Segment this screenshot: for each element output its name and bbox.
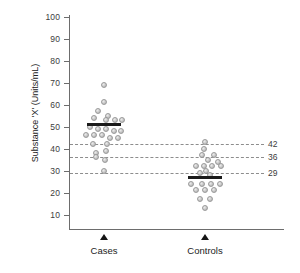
median-bar-cases xyxy=(87,123,121,126)
reference-line-29 xyxy=(70,173,264,174)
data-point xyxy=(102,157,108,163)
y-tick-label-10: 10 xyxy=(20,210,60,220)
data-point xyxy=(103,126,109,132)
data-point xyxy=(95,126,101,132)
group-label-cases: Cases xyxy=(59,245,149,256)
reference-line-42 xyxy=(70,144,264,145)
reference-label-29: 29 xyxy=(268,168,277,178)
data-point xyxy=(111,128,117,134)
y-tick-70 xyxy=(64,83,69,84)
data-point xyxy=(202,205,208,211)
data-point xyxy=(207,196,213,202)
y-tick-label-70: 70 xyxy=(20,78,60,88)
reference-label-36: 36 xyxy=(268,152,277,162)
data-point xyxy=(188,181,194,187)
y-tick-100 xyxy=(64,17,69,18)
data-point xyxy=(103,148,109,154)
reference-label-42: 42 xyxy=(268,139,277,149)
data-point xyxy=(101,168,107,174)
data-point xyxy=(101,82,107,88)
data-point xyxy=(104,141,110,147)
y-tick-label-60: 60 xyxy=(20,100,60,110)
median-bar-controls xyxy=(188,176,222,179)
y-tick-10 xyxy=(64,215,69,216)
data-point xyxy=(197,196,203,202)
y-tick-30 xyxy=(64,171,69,172)
data-point xyxy=(90,141,96,147)
y-tick-label-30: 30 xyxy=(20,166,60,176)
data-point xyxy=(99,132,105,138)
y-tick-60 xyxy=(64,105,69,106)
y-tick-50 xyxy=(64,127,69,128)
data-point xyxy=(91,115,97,121)
y-tick-40 xyxy=(64,149,69,150)
data-point xyxy=(205,157,211,163)
data-point xyxy=(95,108,101,114)
data-point xyxy=(199,181,205,187)
y-tick-label-100: 100 xyxy=(20,12,60,22)
data-point xyxy=(193,187,199,193)
y-tick-label-20: 20 xyxy=(20,188,60,198)
y-tick-20 xyxy=(64,193,69,194)
y-tick-80 xyxy=(64,61,69,62)
y-axis-line xyxy=(69,15,70,230)
data-point xyxy=(115,135,121,141)
y-tick-label-90: 90 xyxy=(20,34,60,44)
data-point xyxy=(83,132,89,138)
data-point xyxy=(208,181,214,187)
y-tick-90 xyxy=(64,39,69,40)
group-marker-controls xyxy=(201,234,209,240)
group-label-controls: Controls xyxy=(160,245,250,256)
data-point xyxy=(202,139,208,145)
data-point xyxy=(201,146,207,152)
data-point xyxy=(101,99,107,105)
y-tick-label-50: 50 xyxy=(20,122,60,132)
data-point xyxy=(107,135,113,141)
data-point xyxy=(193,163,199,169)
data-point xyxy=(209,163,215,169)
data-point xyxy=(211,187,217,193)
y-tick-label-40: 40 xyxy=(20,144,60,154)
data-point xyxy=(202,187,208,193)
scatter-plot-figure: Substance 'X' (Units/mL) 100908070605040… xyxy=(0,0,300,273)
x-axis-line xyxy=(69,229,284,230)
data-point xyxy=(218,163,224,169)
data-point xyxy=(118,128,124,134)
y-tick-label-80: 80 xyxy=(20,56,60,66)
y-axis-title: Substance 'X' (Units/mL) xyxy=(30,23,40,203)
reference-line-36 xyxy=(70,157,264,158)
group-marker-cases xyxy=(100,234,108,240)
data-point xyxy=(91,132,97,138)
data-point xyxy=(217,181,223,187)
data-point xyxy=(93,154,99,160)
